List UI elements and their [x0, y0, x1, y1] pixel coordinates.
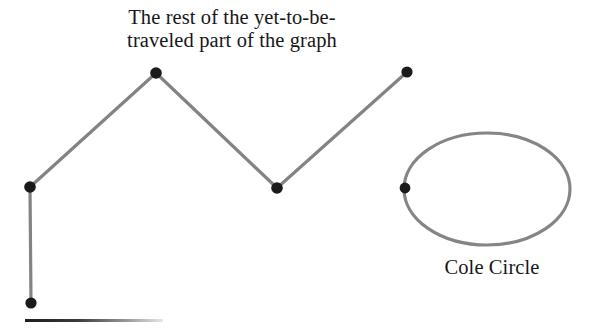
figure-root: The rest of the yet-to-be- traveled part…	[0, 0, 594, 329]
bottom-rule	[25, 319, 163, 322]
vertex-dot-v4	[271, 182, 283, 194]
vertex-dot-v2	[24, 181, 36, 193]
circle-label: Cole Circle	[408, 256, 576, 279]
graph-caption-line-2: traveled part of the graph	[96, 29, 368, 52]
traveled-path-polyline	[30, 72, 407, 303]
graph-caption-line-1: The rest of the yet-to-be-	[96, 6, 368, 29]
graph-caption: The rest of the yet-to-be- traveled part…	[96, 6, 368, 52]
cole-circle-ellipse	[404, 133, 570, 245]
vertex-dot-v3	[150, 67, 162, 79]
vertex-dot-v5	[401, 66, 412, 77]
vertex-dot-c1	[400, 183, 411, 194]
vertex-dot-v1	[25, 297, 36, 308]
vertex-dots	[24, 66, 412, 308]
